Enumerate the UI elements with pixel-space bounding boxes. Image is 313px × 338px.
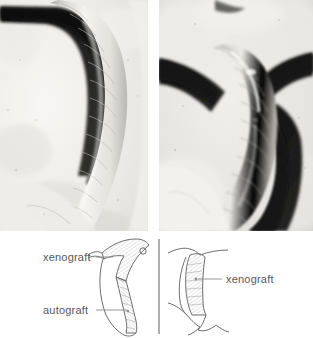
label-xenograft-left: xenograft <box>43 251 91 263</box>
schematic-left: xenograft autograft <box>43 239 149 336</box>
figure-root: xenograft autograft <box>0 0 313 338</box>
xenograft-segment-right <box>186 254 206 315</box>
label-autograft-left: autograft <box>43 304 88 316</box>
photomicrograph-right-image <box>159 0 313 231</box>
graft-schematic: xenograft autograft <box>0 231 313 338</box>
autograft-marker-left <box>127 310 129 312</box>
autograft-segment-left <box>116 277 137 333</box>
xenograft-segment-left <box>102 239 149 281</box>
label-xenograft-right: xenograft <box>226 273 274 285</box>
schematic-right: xenograft <box>168 248 274 335</box>
photomicrograph-right <box>159 0 313 231</box>
photomicrograph-left <box>0 0 148 231</box>
photomicrograph-left-image <box>0 0 148 231</box>
graft-marker-right <box>195 278 198 281</box>
graft-schematic-drawing: xenograft autograft <box>0 231 313 338</box>
